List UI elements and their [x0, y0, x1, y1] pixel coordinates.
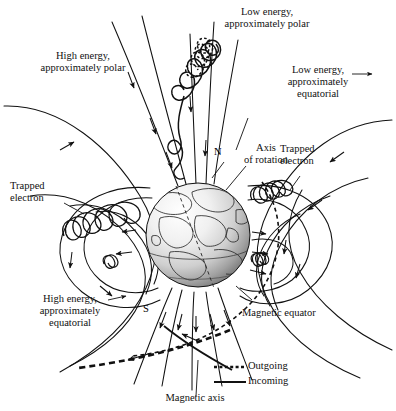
label-high-energy-polar-line1: High energy, [18, 50, 148, 62]
arrow-cusp-2 [205, 140, 206, 156]
label-axis-of-rotation-line1: Axis [228, 142, 304, 154]
arrow-eq-l-2 [116, 252, 132, 254]
legend-incoming-label: Incoming [248, 375, 288, 386]
label-low-energy-equatorial-line3: equatorial [272, 88, 364, 100]
label-high-energy-polar: High energy, approximately polar [18, 50, 148, 74]
leader-trapped-electron-right [290, 176, 300, 190]
outgoing-trajectory-lower [78, 330, 230, 368]
arrow-n-mid [190, 96, 191, 112]
label-trapped-electron-left-line2: electron [10, 192, 72, 204]
label-axis-of-rotation-line2: of rotation [228, 154, 304, 166]
trapped-electron-helix-left [63, 202, 141, 240]
arrow-cusp-1 [166, 152, 172, 168]
label-magnetic-equator: Magnetic equator [242, 307, 352, 319]
label-axis-of-rotation: Axis of rotation [228, 142, 304, 166]
polar-field-line-s-5 [218, 288, 252, 380]
label-magnetic-axis: Magnetic axis [130, 392, 260, 404]
arrow-l-1 [70, 252, 72, 268]
field-line-outer-right-2 [289, 190, 392, 350]
label-high-energy-equatorial-line1: High energy, [24, 293, 116, 305]
inner-loop-right-2 [240, 199, 310, 291]
label-high-energy-equatorial-line2: approximately [24, 305, 116, 317]
label-low-energy-polar: Low energy, approximately polar [202, 6, 332, 30]
trapped-electron-helix-right-lower [251, 253, 269, 267]
label-low-energy-polar-line1: Low energy, [202, 6, 332, 18]
magnetosphere-diagram: Low energy, approximately polar High ene… [0, 0, 396, 411]
label-high-energy-polar-line2: approximately polar [18, 62, 148, 74]
earth-globe [146, 183, 250, 288]
legend-outgoing-label: Outgoing [248, 360, 288, 371]
field-line-outer-left-1 [4, 106, 156, 372]
arrow-n-left [128, 72, 134, 88]
label-trapped-electron-left-line1: Trapped [10, 180, 72, 192]
label-north-pole: N [214, 146, 222, 157]
label-low-energy-equatorial-line1: Low energy, [272, 64, 364, 76]
trapped-electron-helix-left-lower [103, 255, 118, 268]
label-high-energy-equatorial: High energy, approximately equatorial [24, 293, 116, 328]
label-low-energy-equatorial-line2: approximately [272, 76, 364, 88]
label-high-energy-equatorial-line3: equatorial [24, 317, 116, 329]
arrow-outer-l [60, 142, 74, 150]
leader-axis-of-rotation [226, 166, 246, 190]
incoming-particle-spiral-north [168, 40, 221, 179]
label-south-pole: S [143, 303, 149, 314]
label-low-energy-polar-line2: approximately polar [202, 18, 332, 30]
leader-magnetic-axis [196, 360, 198, 396]
label-low-energy-equatorial: Low energy, approximately equatorial [272, 64, 364, 99]
label-trapped-electron-left: Trapped electron [10, 180, 72, 204]
arrow-s-2 [178, 314, 182, 330]
polar-field-line-n-1 [112, 22, 178, 186]
leader-north-pole [212, 162, 224, 178]
arrow-eq-r-1 [252, 232, 266, 234]
